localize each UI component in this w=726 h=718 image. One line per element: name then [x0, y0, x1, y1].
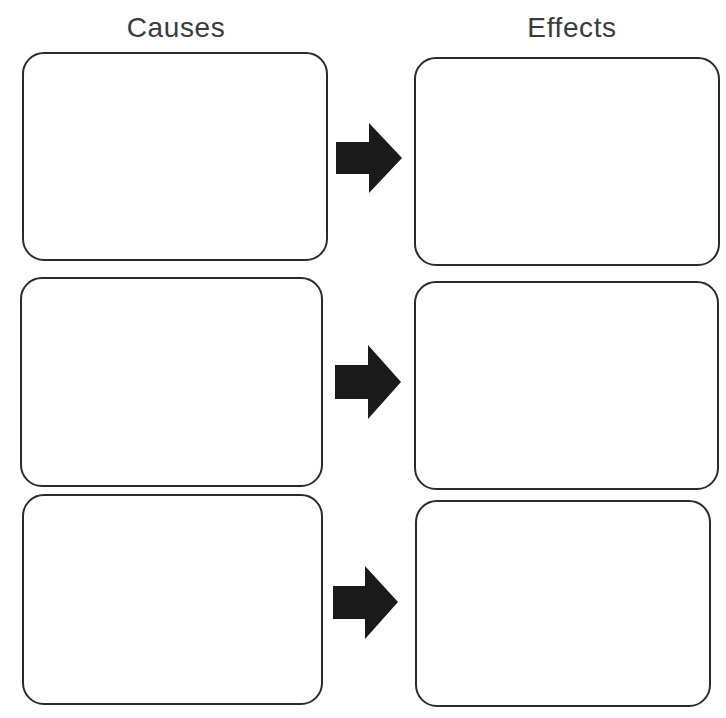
- arrow-right-icon: [335, 345, 401, 419]
- arrow-right-icon: [336, 123, 402, 193]
- effect-box-3[interactable]: [415, 500, 711, 707]
- column-heading-causes: Causes: [26, 12, 326, 44]
- arrow-right-icon: [333, 566, 398, 639]
- cause-effect-organizer: Cause and Effect Causes Effects: [0, 0, 726, 718]
- cause-box-3[interactable]: [22, 494, 323, 705]
- cause-box-2[interactable]: [20, 277, 323, 487]
- cut-off-title-fragment: Cause and Effect: [452, 0, 692, 6]
- effect-box-1[interactable]: [414, 57, 720, 266]
- column-heading-effects: Effects: [422, 12, 722, 44]
- effect-box-2[interactable]: [414, 281, 719, 490]
- cause-box-1[interactable]: [22, 52, 328, 261]
